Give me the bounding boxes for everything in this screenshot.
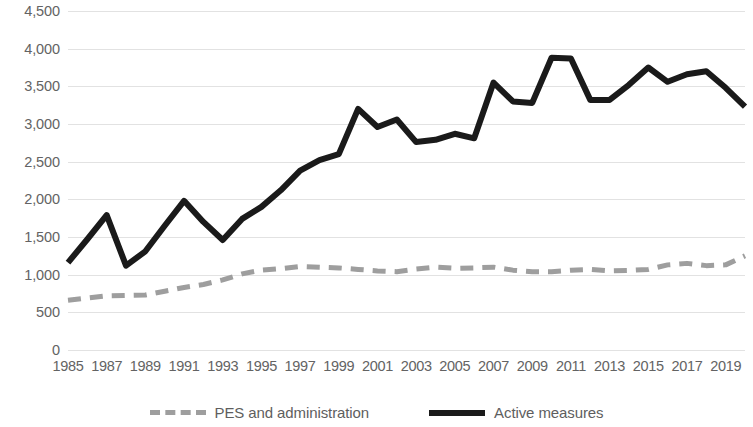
x-tick-label: 2009 — [517, 358, 548, 375]
y-tick-label: 500 — [2, 305, 60, 320]
series-line — [68, 256, 745, 300]
y-tick-label: 0 — [2, 343, 60, 358]
x-tick-label: 1987 — [91, 358, 122, 375]
x-tick-label: 2003 — [401, 358, 432, 375]
x-axis: 1985198719891991199319951997199920012003… — [68, 358, 745, 380]
plot-area — [68, 11, 745, 350]
x-tick-label: 1991 — [169, 358, 200, 375]
series-layer — [68, 11, 745, 350]
x-tick-label: 1989 — [130, 358, 161, 375]
x-tick-label: 1997 — [285, 358, 316, 375]
y-tick-label: 3,000 — [2, 117, 60, 132]
x-tick-label: 2015 — [633, 358, 664, 375]
legend-entry[interactable]: PES and administration — [150, 404, 370, 421]
x-tick-label: 2001 — [362, 358, 393, 375]
legend-entry[interactable]: Active measures — [429, 404, 603, 421]
line-chart: 4,5004,0003,5003,0002,5002,0001,5001,000… — [0, 0, 753, 427]
y-tick-label: 4,500 — [2, 4, 60, 19]
y-tick-label: 1,500 — [2, 230, 60, 245]
legend-label: Active measures — [494, 404, 603, 421]
y-tick-label: 4,000 — [2, 41, 60, 56]
dashed-line-swatch — [150, 410, 206, 415]
x-tick-label: 1993 — [207, 358, 238, 375]
x-tick-label: 2005 — [439, 358, 470, 375]
y-tick-label: 2,500 — [2, 154, 60, 169]
gridline — [68, 350, 745, 351]
x-tick-label: 1985 — [52, 358, 83, 375]
x-tick-label: 2011 — [556, 358, 586, 375]
x-tick-label: 2013 — [594, 358, 625, 375]
y-axis: 4,5004,0003,5003,0002,5002,0001,5001,000… — [0, 0, 60, 427]
legend-label: PES and administration — [215, 404, 370, 421]
x-tick-label: 2019 — [710, 358, 741, 375]
x-tick-label: 1999 — [323, 358, 354, 375]
chart-legend: PES and administrationActive measures — [0, 398, 753, 427]
y-tick-label: 2,000 — [2, 192, 60, 207]
solid-line-swatch — [429, 410, 485, 416]
series-line — [68, 58, 745, 266]
y-tick-label: 3,500 — [2, 79, 60, 94]
x-tick-label: 2007 — [478, 358, 509, 375]
y-tick-label: 1,000 — [2, 267, 60, 282]
x-tick-label: 2017 — [671, 358, 702, 375]
x-tick-label: 1995 — [246, 358, 277, 375]
